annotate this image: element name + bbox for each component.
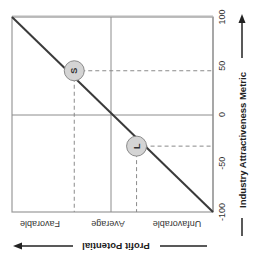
x-tick-label: -50 xyxy=(217,157,227,170)
chart: SL -100-50050100 UnfavorableAverageFavor… xyxy=(0,0,255,262)
y-axis-categories: UnfavorableAverageFavorable xyxy=(20,219,201,229)
x-axis-title: Industry Attractiveness Metric xyxy=(237,72,248,208)
y-axis-title: Profit Potential xyxy=(82,241,150,252)
x-axis-ticks: -100-50050100 xyxy=(217,9,227,221)
arrow-left-icon xyxy=(13,243,22,250)
x-tick-label: 100 xyxy=(217,9,227,24)
x-tick-label: -100 xyxy=(217,203,227,221)
marker-label: S xyxy=(69,68,79,74)
arrow-up-icon xyxy=(239,14,246,23)
y-category-label: Average xyxy=(91,219,124,229)
x-tick-label: 50 xyxy=(217,61,227,71)
marker-label: L xyxy=(132,143,142,149)
y-axis-title-group: Profit Potential xyxy=(13,241,207,252)
y-category-label: Unfavorable xyxy=(153,219,202,229)
marker-l: L xyxy=(127,136,147,156)
x-tick-label: 0 xyxy=(217,112,227,117)
y-category-label: Favorable xyxy=(20,219,60,229)
x-axis-title-group: Industry Attractiveness Metric xyxy=(237,14,248,236)
marker-s: S xyxy=(64,61,84,81)
